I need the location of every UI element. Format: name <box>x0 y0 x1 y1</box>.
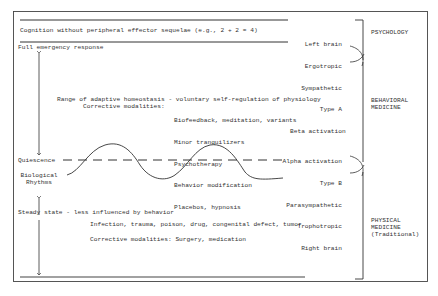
item-biofeedback: Biofeedback, meditation, variants <box>174 117 297 124</box>
upper-traits: Left brain Ergotropic Sympathetic Type A… <box>290 27 342 142</box>
trait-ergotropic: Ergotropic <box>290 63 342 70</box>
physical-corrective-label: Corrective modalities: Surgery, medicati… <box>90 236 246 243</box>
category-psychology: PSYCHOLOGY <box>371 29 408 36</box>
category-behavioral-medicine: BEHAVIORAL MEDICINE <box>371 97 408 111</box>
corrective-prefix: Corrective modalities: <box>83 103 165 110</box>
trait-type-a: Type A <box>290 106 342 113</box>
upper-cross-curve-a <box>350 46 363 66</box>
trait-right-brain: Right brain <box>270 245 342 252</box>
trait-sympathetic: Sympathetic <box>290 85 342 92</box>
physical-bracket <box>355 172 363 279</box>
biological-rhythms-label: Biological Rhythms <box>18 172 60 186</box>
category-physical-medicine: PHYSICAL MEDICINE (Traditional) <box>371 217 419 239</box>
trait-left-brain: Left brain <box>290 41 342 48</box>
cognition-label: Cognition without peripheral effector se… <box>20 27 258 34</box>
steady-state-label: Steady state - less influenced by behavi… <box>18 209 174 216</box>
lower-cross-curve-b <box>350 165 364 173</box>
full-emergency-label: Full emergency response <box>18 44 103 51</box>
trait-alpha: Alpha activation <box>270 158 342 165</box>
trait-beta: Beta activation <box>290 128 342 135</box>
trait-parasympathetic: Parasympathetic <box>270 202 342 209</box>
causes-label: Infection, trauma, poison, drug, congeni… <box>90 221 302 228</box>
trait-type-b: Type B <box>270 180 342 187</box>
lower-traits: Alpha activation Type B Parasympathetic … <box>270 144 342 259</box>
quiescence-label: Quiescence <box>18 157 55 164</box>
